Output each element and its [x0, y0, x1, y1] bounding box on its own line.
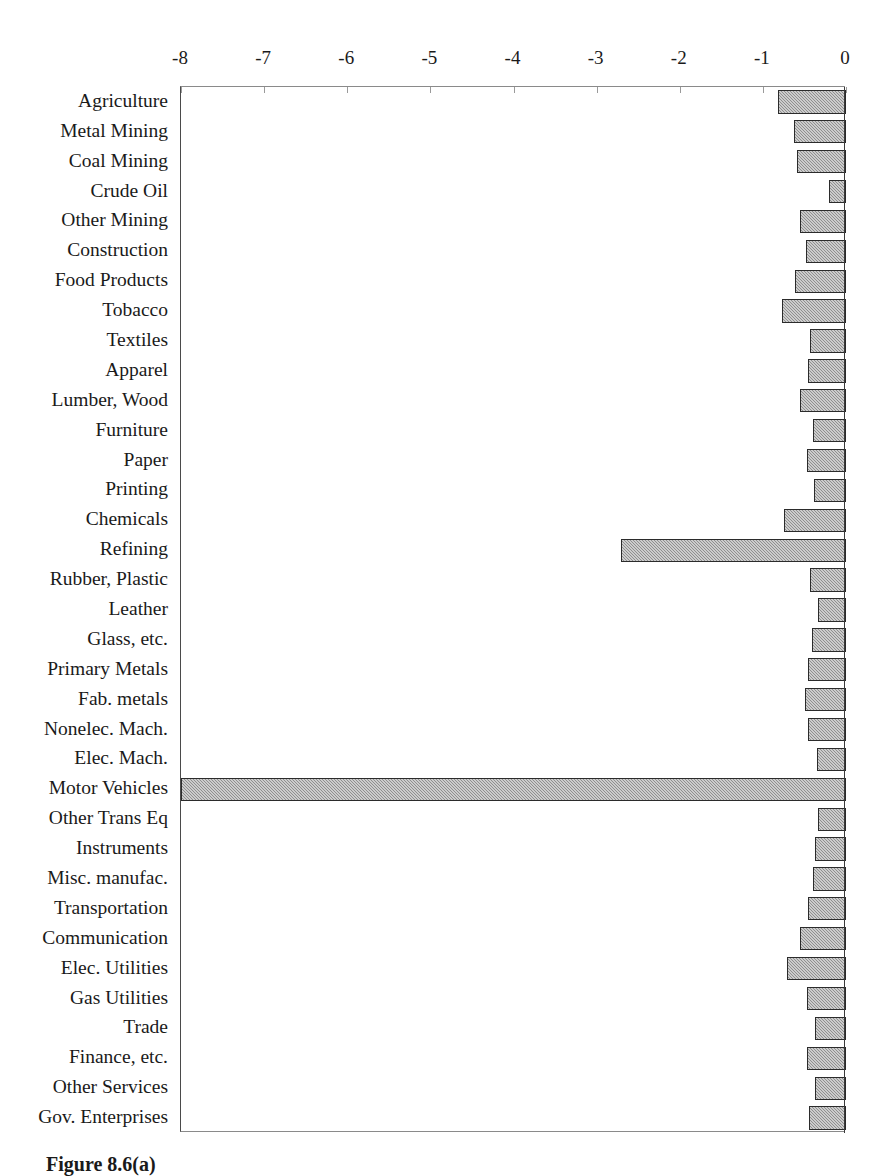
bar	[818, 808, 846, 831]
category-label: Agriculture	[0, 91, 172, 111]
category-label: Textiles	[0, 330, 172, 350]
bar	[794, 120, 846, 143]
figure-caption: Figure 8.6(a)	[46, 1152, 156, 1176]
category-label: Gov. Enterprises	[0, 1107, 172, 1127]
x-tick-label: -7	[233, 46, 293, 70]
bar	[813, 867, 846, 890]
bar	[800, 210, 846, 233]
category-label: Food Products	[0, 270, 172, 290]
category-label: Elec. Utilities	[0, 958, 172, 978]
bar	[807, 987, 846, 1010]
category-label: Refining	[0, 539, 172, 559]
category-label: Furniture	[0, 420, 172, 440]
category-label: Paper	[0, 450, 172, 470]
bar	[800, 389, 846, 412]
bar	[806, 240, 846, 263]
bar	[778, 90, 846, 113]
x-tick-mark	[763, 87, 764, 93]
x-tick-mark	[181, 87, 182, 93]
x-tick-label: -2	[649, 46, 709, 70]
category-label: Elec. Mach.	[0, 748, 172, 768]
category-label: Rubber, Plastic	[0, 569, 172, 589]
category-label: Fab. metals	[0, 689, 172, 709]
plot-area	[180, 86, 845, 1132]
category-label: Glass, etc.	[0, 629, 172, 649]
category-label: Chemicals	[0, 509, 172, 529]
x-tick-mark	[597, 87, 598, 93]
category-label: Misc. manufac.	[0, 868, 172, 888]
bar-series	[181, 87, 846, 1133]
category-label: Nonelec. Mach.	[0, 719, 172, 739]
bar	[782, 299, 846, 322]
x-tick-label: -3	[566, 46, 626, 70]
bar	[784, 509, 846, 532]
bar	[621, 539, 846, 562]
bar	[800, 927, 846, 950]
x-tick-mark	[430, 87, 431, 93]
bar	[810, 329, 846, 352]
category-label: Printing	[0, 479, 172, 499]
bar	[808, 718, 846, 741]
x-axis-tick-labels: -8-7-6-5-4-3-2-10	[0, 46, 892, 72]
category-label: Crude Oil	[0, 181, 172, 201]
bar	[181, 778, 846, 801]
x-tick-label: -8	[150, 46, 210, 70]
category-label: Apparel	[0, 360, 172, 380]
bar	[818, 598, 846, 621]
bar	[809, 1106, 846, 1129]
category-label: Coal Mining	[0, 151, 172, 171]
bar	[795, 270, 846, 293]
category-label: Primary Metals	[0, 659, 172, 679]
x-tick-mark	[514, 87, 515, 93]
category-label: Gas Utilities	[0, 988, 172, 1008]
x-tick-mark	[680, 87, 681, 93]
category-label: Other Services	[0, 1077, 172, 1097]
bar	[808, 359, 846, 382]
bar	[815, 837, 846, 860]
x-tick-label: -4	[483, 46, 543, 70]
category-axis-labels: AgricultureMetal MiningCoal MiningCrude …	[0, 86, 172, 1132]
bar	[797, 150, 846, 173]
zero-baseline	[844, 87, 846, 1133]
category-label: Lumber, Wood	[0, 390, 172, 410]
bar	[808, 897, 846, 920]
category-label: Transportation	[0, 898, 172, 918]
bar	[817, 748, 846, 771]
category-label: Motor Vehicles	[0, 778, 172, 798]
category-label: Tobacco	[0, 300, 172, 320]
bar	[808, 658, 846, 681]
category-label: Construction	[0, 240, 172, 260]
bar	[815, 1017, 846, 1040]
bar	[805, 688, 846, 711]
bar	[807, 449, 846, 472]
category-label: Trade	[0, 1017, 172, 1037]
category-label: Other Trans Eq	[0, 808, 172, 828]
category-label: Metal Mining	[0, 121, 172, 141]
x-tick-label: -1	[732, 46, 792, 70]
category-label: Other Mining	[0, 210, 172, 230]
bar	[812, 628, 846, 651]
bar	[815, 1077, 846, 1100]
category-label: Finance, etc.	[0, 1047, 172, 1067]
x-tick-label: 0	[815, 46, 875, 70]
x-tick-label: -6	[316, 46, 376, 70]
bar	[814, 479, 846, 502]
x-tick-mark	[846, 87, 847, 93]
x-tick-mark	[347, 87, 348, 93]
bar	[787, 957, 846, 980]
category-label: Instruments	[0, 838, 172, 858]
bar	[807, 1047, 846, 1070]
x-tick-label: -5	[399, 46, 459, 70]
bar	[813, 419, 846, 442]
bar	[810, 568, 846, 591]
x-tick-mark	[264, 87, 265, 93]
category-label: Communication	[0, 928, 172, 948]
category-label: Leather	[0, 599, 172, 619]
